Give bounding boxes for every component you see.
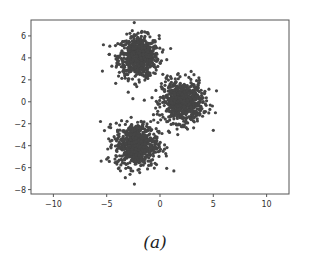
data-point	[205, 99, 208, 102]
data-point	[198, 111, 201, 114]
data-point	[135, 58, 138, 61]
data-point	[189, 106, 192, 109]
data-point	[135, 153, 138, 156]
data-point	[121, 161, 124, 164]
data-point	[172, 169, 175, 172]
data-point	[106, 147, 109, 150]
data-point	[140, 163, 143, 166]
data-point	[155, 140, 158, 143]
x-axis-ticks: −10−50510	[45, 194, 272, 209]
data-point	[203, 111, 206, 114]
data-point	[138, 171, 141, 174]
data-point	[166, 99, 169, 102]
data-point	[144, 139, 147, 142]
data-point	[156, 130, 159, 133]
data-point	[129, 138, 132, 141]
data-point	[195, 104, 198, 107]
data-point	[128, 173, 131, 176]
data-point	[167, 78, 170, 81]
data-point	[120, 65, 123, 68]
data-point	[136, 36, 139, 39]
data-point	[139, 38, 142, 41]
data-point	[146, 155, 149, 158]
data-point	[137, 64, 140, 67]
data-point	[173, 84, 176, 87]
data-point	[132, 155, 135, 158]
data-point	[177, 122, 180, 125]
data-point	[149, 120, 152, 123]
data-point	[160, 82, 163, 85]
data-point	[159, 118, 162, 121]
figure-caption: (a)	[0, 232, 310, 252]
data-point	[148, 59, 151, 62]
data-point	[132, 136, 135, 139]
data-point	[214, 111, 217, 114]
data-point	[118, 123, 121, 126]
scatter-points	[99, 21, 218, 186]
data-point	[176, 133, 179, 136]
x-tick-label: 5	[211, 200, 216, 209]
data-point	[140, 120, 143, 123]
data-point	[143, 99, 146, 102]
data-point	[181, 84, 184, 87]
data-point	[172, 122, 175, 125]
data-point	[140, 30, 143, 33]
data-point	[157, 143, 160, 146]
data-point	[124, 123, 127, 126]
data-point	[159, 62, 162, 65]
data-point	[198, 81, 201, 84]
data-point	[109, 126, 112, 129]
data-point	[187, 109, 190, 112]
data-point	[157, 155, 160, 158]
data-point	[165, 120, 168, 123]
data-point	[109, 123, 112, 126]
data-point	[212, 129, 215, 132]
data-point	[135, 85, 138, 88]
data-point	[163, 104, 166, 107]
data-point	[165, 96, 168, 99]
data-point	[172, 88, 175, 91]
data-point	[152, 118, 155, 121]
data-point	[169, 47, 172, 50]
data-point	[155, 135, 158, 138]
data-point	[207, 88, 210, 91]
data-point	[165, 167, 168, 170]
data-point	[196, 117, 199, 120]
data-point	[154, 55, 157, 58]
data-point	[172, 117, 175, 120]
data-point	[168, 110, 171, 113]
data-point	[129, 169, 132, 172]
data-point	[120, 158, 123, 161]
data-point	[164, 80, 167, 83]
data-point	[143, 149, 146, 152]
data-point	[148, 71, 151, 74]
data-point	[127, 77, 130, 80]
data-point	[168, 131, 171, 134]
data-point	[158, 47, 161, 50]
data-point	[131, 77, 134, 80]
data-point	[189, 85, 192, 88]
data-point	[143, 30, 146, 33]
data-point	[170, 113, 173, 116]
data-point	[101, 69, 104, 72]
y-tick-label: −2	[14, 120, 26, 129]
data-point	[118, 142, 121, 145]
data-point	[207, 111, 210, 114]
data-point	[108, 160, 111, 163]
data-point	[187, 91, 190, 94]
data-point	[151, 41, 154, 44]
data-point	[138, 168, 141, 171]
data-point	[163, 143, 166, 146]
data-point	[139, 56, 142, 59]
x-tick-label: −10	[45, 200, 62, 209]
data-point	[134, 159, 137, 162]
data-point	[134, 147, 137, 150]
data-point	[148, 35, 151, 38]
data-point	[208, 108, 211, 111]
data-point	[137, 41, 140, 44]
data-point	[133, 43, 136, 46]
data-point	[125, 163, 128, 166]
data-point	[182, 123, 185, 126]
data-point	[145, 41, 148, 44]
data-point	[164, 152, 167, 155]
